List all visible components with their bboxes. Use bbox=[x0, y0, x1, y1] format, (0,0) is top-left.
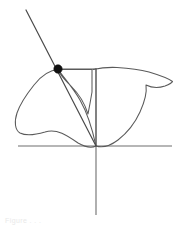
tangent-line bbox=[26, 10, 96, 146]
polar-curve-plot bbox=[0, 0, 182, 229]
figure-caption: Figure . . . bbox=[5, 217, 41, 224]
right-wing-curve bbox=[93, 67, 173, 146]
marked-point bbox=[54, 65, 62, 73]
figure-container: Figure . . . bbox=[0, 0, 182, 229]
